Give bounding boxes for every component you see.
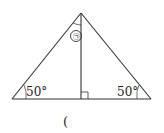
triangle-diagram: ㉠ 50° 50° ( <box>0 0 164 133</box>
marked-angle-label: ㉠ <box>73 33 80 41</box>
left-angle-label: 50° <box>26 85 47 99</box>
apex-angle-arc <box>73 23 81 25</box>
right-angle-label: 50° <box>117 85 138 99</box>
right-side <box>81 13 151 99</box>
right-angle-mark <box>81 92 88 99</box>
answer-paren: ( <box>63 114 68 129</box>
